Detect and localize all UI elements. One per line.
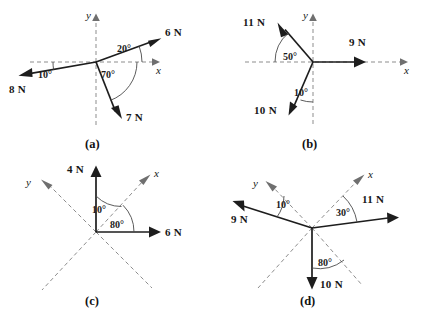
panel-d-force-label-9n: 9 N <box>231 213 248 225</box>
panel-c-y-axis-label: y <box>25 176 31 188</box>
panel-b: x y 9 N 11 N 10 N 50° 10° (b) <box>243 9 409 151</box>
diagram-canvas: x y 6 N 8 N 7 N 20° 10° 70° (a) <box>0 0 422 323</box>
panel-d-caption: (d) <box>300 294 315 308</box>
panel-c-vector-4n-arrowhead <box>91 166 102 178</box>
panel-a-vector-6n-arrowhead <box>148 38 161 47</box>
panel-c-y-axis-arrowhead <box>41 180 53 190</box>
panel-b-force-label-9n: 9 N <box>349 36 366 48</box>
panel-c: x y 4 N 6 N 10° 80° (c) <box>25 163 182 308</box>
panel-b-vector-9n-arrowhead <box>354 57 366 68</box>
panel-a-y-axis-arrowhead <box>92 14 100 22</box>
panel-b-y-axis-arrowhead <box>309 14 317 22</box>
panel-d-vector-9n-arrowhead <box>233 201 245 212</box>
panel-d-vector-11n-arrowhead <box>387 213 399 224</box>
panel-b-arc-10 <box>301 100 314 102</box>
panel-c-x-axis-label: x <box>153 167 159 179</box>
panel-a-x-axis-label: x <box>155 64 161 76</box>
panel-b-angle-label-10: 10° <box>294 87 308 98</box>
panel-a-arc-10 <box>53 62 54 70</box>
panel-d-vector-10n-arrowhead <box>307 277 318 290</box>
panel-c-angle-label-80: 80° <box>110 219 124 230</box>
panel-b-force-label-10n: 10 N <box>254 104 277 116</box>
panel-c-vector-6n-arrowhead <box>149 227 161 238</box>
panel-a: x y 6 N 8 N 7 N 20° 10° 70° (a) <box>9 9 182 151</box>
panel-d-x-axis <box>312 180 358 228</box>
panel-c-angle-label-10: 10° <box>92 204 106 215</box>
panel-a-force-label-7n: 7 N <box>126 111 143 123</box>
panel-b-caption: (b) <box>302 137 317 151</box>
panel-d-x-axis-arrowhead <box>353 175 365 186</box>
panel-d-angle-label-30: 30° <box>336 207 350 218</box>
force-diagram-figure: x y 6 N 8 N 7 N 20° 10° 70° (a) <box>0 0 422 323</box>
panel-d-angle-label-80: 80° <box>318 257 332 268</box>
panel-c-caption: (c) <box>85 294 99 308</box>
panel-a-force-label-6n: 6 N <box>165 26 182 38</box>
panel-c-force-label-6n: 6 N <box>165 226 182 238</box>
panel-b-force-label-11n: 11 N <box>243 16 265 28</box>
panel-c-y-axis <box>48 184 96 232</box>
panel-d-vector-11n <box>312 218 388 228</box>
panel-a-angle-label-10: 10° <box>38 69 52 80</box>
panel-a-caption: (a) <box>85 137 100 151</box>
panel-a-angle-label-20: 20° <box>117 43 131 54</box>
panel-a-y-axis-label: y <box>85 9 91 21</box>
panel-a-vector-8n-arrowhead <box>19 68 33 77</box>
panel-b-vector-10n <box>294 62 313 106</box>
panel-d-force-label-10n: 10 N <box>320 278 343 290</box>
panel-d-angle-label-10: 10° <box>276 199 290 210</box>
panel-c-arc-80 <box>123 205 134 232</box>
panel-a-angle-label-70: 70° <box>101 69 115 80</box>
panel-c-y-axis-negative <box>96 232 152 288</box>
panel-b-vector-10n-arrowhead <box>289 102 298 116</box>
panel-b-angle-label-50: 50° <box>283 51 297 62</box>
panel-d-y-axis-label: y <box>252 177 258 189</box>
panel-b-y-axis-label: y <box>302 9 308 21</box>
panel-d: x y 11 N 9 N 10 N 10° 30° <box>231 168 399 308</box>
panel-c-force-label-4n: 4 N <box>67 163 84 175</box>
panel-d-y-axis-negative <box>258 228 312 288</box>
panel-b-x-axis-label: x <box>403 64 409 76</box>
panel-c-x-axis-negative <box>42 232 96 290</box>
panel-a-arc-70 <box>110 62 137 101</box>
panel-a-force-label-8n: 8 N <box>9 83 26 95</box>
panel-a-vector-7n-arrowhead <box>111 105 122 119</box>
panel-a-arc-20 <box>139 46 142 62</box>
panel-d-x-axis-label: x <box>367 168 373 180</box>
panel-d-force-label-11n: 11 N <box>362 193 384 205</box>
